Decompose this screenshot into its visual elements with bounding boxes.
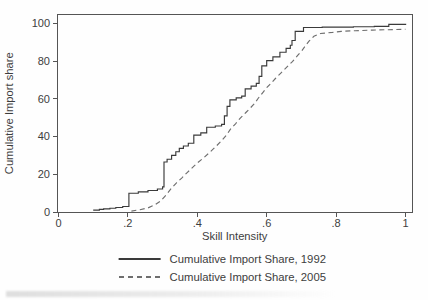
y-tick-label: 80 <box>38 55 50 67</box>
y-axis-title: Cumulative Import share <box>3 52 15 174</box>
legend-label-1992: Cumulative Import Share, 1992 <box>170 252 326 266</box>
solid-line-swatch-icon <box>119 258 161 259</box>
dashed-line-swatch-icon <box>119 276 161 277</box>
series-line-1992 <box>93 24 406 210</box>
series-line-2005 <box>131 29 405 211</box>
x-tick-label: 0 <box>55 217 61 229</box>
legend-label-2005: Cumulative Import Share, 2005 <box>170 270 326 284</box>
x-axis-title: Skill Intensity <box>202 230 268 242</box>
y-tick-label: 40 <box>38 130 50 142</box>
legend-item-2005: Cumulative Import Share, 2005 <box>119 270 326 284</box>
plot-frame <box>57 15 413 213</box>
legend-item-1992: Cumulative Import Share, 1992 <box>119 252 326 266</box>
y-tick-label: 20 <box>38 168 50 180</box>
cropped-caption-smudge <box>6 291 336 297</box>
x-tick-label: .6 <box>262 217 271 229</box>
x-tick-label: 1 <box>402 217 408 229</box>
chart-legend: Cumulative Import Share, 1992 Cumulative… <box>119 252 326 284</box>
x-tick-label: .4 <box>193 217 202 229</box>
x-tick-label: .2 <box>123 217 132 229</box>
cdf-chart-figure: 0204060801000.2.4.6.81Skill IntensityCum… <box>0 0 428 300</box>
y-tick-label: 60 <box>38 93 50 105</box>
y-tick-label: 100 <box>32 17 50 29</box>
y-tick-label: 0 <box>44 206 50 218</box>
x-tick-label: .8 <box>332 217 341 229</box>
